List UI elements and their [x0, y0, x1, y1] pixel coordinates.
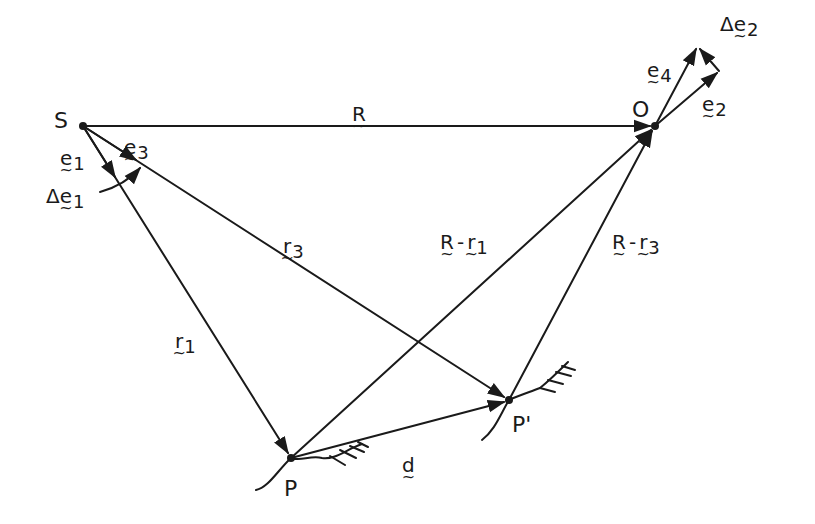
vector-delta-e1-arc — [100, 168, 140, 192]
point-P-prime-dot — [505, 396, 513, 404]
label-d: d — [402, 455, 415, 475]
point-P-prime-label: P' — [512, 414, 531, 436]
point-S-label: S — [54, 110, 68, 132]
label-e1: e1 — [60, 148, 85, 168]
vector-diagram — [0, 0, 815, 524]
surface-at-P — [256, 444, 362, 490]
point-O-label: O — [632, 99, 649, 121]
point-O-dot — [651, 122, 659, 130]
surface-hatch-P-prime — [540, 366, 575, 392]
label-r1: r1 — [175, 331, 196, 351]
label-r3: r3 — [283, 236, 304, 256]
label-delta-e1: Δe1 — [46, 186, 84, 206]
vector-delta-e2-line — [700, 49, 719, 71]
label-e2: e2 — [702, 94, 727, 114]
point-S-dot — [79, 122, 87, 130]
point-P-label: P — [284, 478, 297, 500]
label-R-minus-r3: R-r3 — [612, 232, 660, 252]
vector-R-minus-r3-line — [509, 131, 652, 400]
label-delta-e2: Δe2 — [720, 14, 758, 34]
point-P-dot — [287, 454, 295, 462]
label-R: R — [352, 104, 366, 124]
label-e3: e3 — [124, 137, 149, 157]
vector-e1-line — [83, 126, 115, 177]
label-R-minus-r1: R-r1 — [440, 232, 488, 252]
label-e4: e4 — [647, 60, 672, 80]
diagram-canvas: S O P P' R e1 e3 Δe1 r3 r1 d R-r1 R-r3 e… — [0, 0, 815, 524]
